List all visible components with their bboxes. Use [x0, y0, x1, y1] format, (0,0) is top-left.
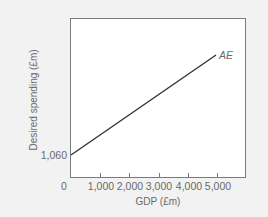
x-axis-title: GDP (£m)	[136, 196, 181, 207]
plot-area	[71, 19, 246, 178]
y-intercept-label: 1,060	[41, 149, 67, 161]
y-axis-title: Desired spending (£m)	[28, 49, 39, 150]
x-tick-label-1000: 1,000	[88, 180, 114, 192]
x-tick-label-4000: 4,000	[176, 180, 202, 192]
chart: AE 1,060 0 1,000 2,000 3,000 4,000 5,000…	[0, 0, 268, 217]
ae-label: AE	[218, 49, 234, 61]
x-tick-label-5000: 5,000	[205, 180, 231, 192]
x-tick-label-3000: 3,000	[146, 180, 172, 192]
x-tick-label-2000: 2,000	[117, 180, 143, 192]
x-tick-label-0: 0	[61, 180, 67, 192]
